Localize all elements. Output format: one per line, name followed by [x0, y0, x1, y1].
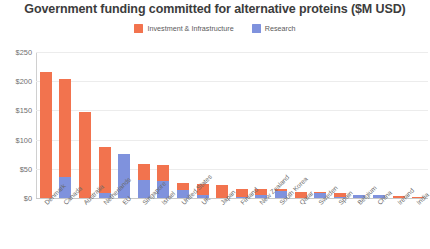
bar-segment-investment[interactable] [177, 183, 189, 189]
bar-segment-investment[interactable] [40, 72, 52, 198]
y-axis-tick-label: $100 [0, 135, 32, 144]
x-axis-labels: DenmarkCanadaAustraliaNetherlandsEUSinga… [36, 199, 428, 249]
chart-container: Government funding committed for alterna… [0, 0, 430, 249]
bar-segment-investment[interactable] [79, 112, 91, 198]
y-axis-tick-label: $0 [0, 194, 32, 203]
bar-group[interactable] [40, 72, 52, 198]
gridline [36, 140, 428, 141]
legend-label-research: Research [265, 24, 296, 33]
gridline [36, 52, 428, 53]
bar-group[interactable] [79, 112, 91, 198]
y-axis-tick-label: $50 [0, 164, 32, 173]
gridline [36, 169, 428, 170]
legend-label-investment: Investment & Infrastructure [147, 24, 233, 33]
legend-swatch-research [252, 24, 261, 33]
legend-swatch-investment [134, 24, 143, 33]
bar-segment-investment[interactable] [59, 79, 71, 177]
chart-legend: Investment & Infrastructure Research [0, 24, 430, 33]
gridline [36, 81, 428, 82]
bar-segment-investment[interactable] [157, 165, 169, 181]
bar-group[interactable] [59, 79, 71, 198]
y-axis-tick-label: $200 [0, 77, 32, 86]
plot-area [36, 52, 428, 198]
legend-item-investment[interactable]: Investment & Infrastructure [134, 24, 233, 33]
legend-item-research[interactable]: Research [252, 24, 296, 33]
chart-title: Government funding committed for alterna… [0, 2, 430, 16]
bar-segment-investment[interactable] [138, 164, 150, 180]
y-axis-tick-label: $250 [0, 48, 32, 57]
y-axis-tick-label: $150 [0, 106, 32, 115]
y-axis-labels: $0$50$100$150$200$250 [0, 52, 32, 198]
gridline [36, 110, 428, 111]
